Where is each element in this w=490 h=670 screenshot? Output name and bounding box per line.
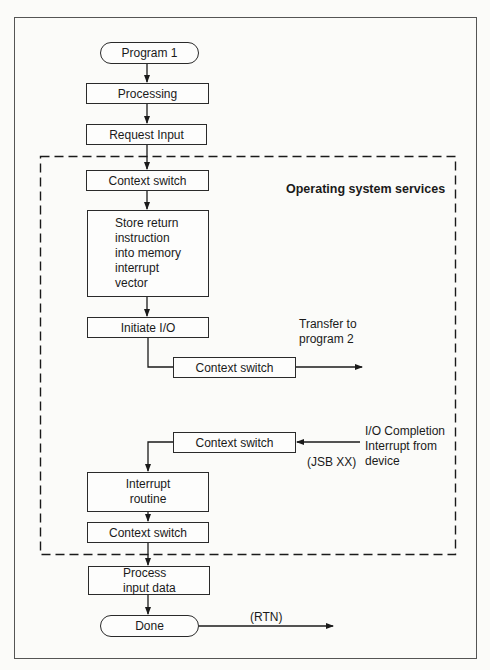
node-context-switch-3: Context switch [173,432,296,453]
node-context-switch-4: Context switch [87,522,209,543]
node-label: Request Input [109,128,184,142]
node-label: Context switch [108,174,186,188]
node-label: Process input data [123,566,176,596]
rtn-label: (RTN) [250,610,282,625]
line-cs3-interrupt [148,442,173,471]
node-context-switch-1: Context switch [86,170,209,191]
node-label: Done [135,619,164,633]
node-store-return: Store return instruction into memory int… [87,210,209,297]
node-label: Program 1 [121,46,177,60]
node-label: Store return instruction into memory int… [115,216,181,291]
transfer-label: Transfer to program 2 [299,317,357,347]
node-label: Initiate I/O [121,321,176,335]
node-process-input: Process input data [88,566,210,595]
node-context-switch-2: Context switch [173,357,296,378]
node-program1: Program 1 [100,42,199,64]
node-request-input: Request Input [86,124,207,145]
diagram-lines [0,0,490,670]
node-label: Context switch [109,526,187,540]
node-initiate-io: Initiate I/O [87,317,209,338]
os-services-label: Operating system services [286,182,445,197]
node-label: Context switch [195,436,273,450]
node-interrupt-routine: Interrupt routine [87,472,209,512]
node-processing: Processing [86,83,209,104]
node-label: Processing [118,87,177,101]
jsb-label: (JSB XX) [307,455,356,470]
io-completion-label: I/O Completion Interrupt from device [365,424,445,469]
node-label: Context switch [195,361,273,375]
line-initiate-cs2 [148,337,173,367]
outer-frame [15,18,477,659]
node-label: Interrupt routine [126,477,171,507]
node-done: Done [100,615,199,637]
